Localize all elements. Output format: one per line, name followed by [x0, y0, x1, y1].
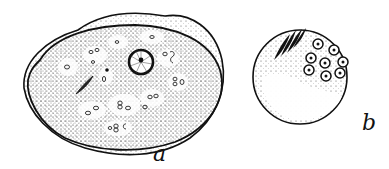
panel-a: a [24, 13, 224, 166]
nucleolus [139, 58, 144, 63]
nucleus [129, 50, 153, 74]
panel-b: b [253, 28, 376, 135]
figure-illustration: a b [0, 0, 389, 169]
panel-label-b: b [362, 110, 376, 135]
dark-granule [105, 68, 109, 72]
panel-label-a: a [153, 141, 166, 166]
